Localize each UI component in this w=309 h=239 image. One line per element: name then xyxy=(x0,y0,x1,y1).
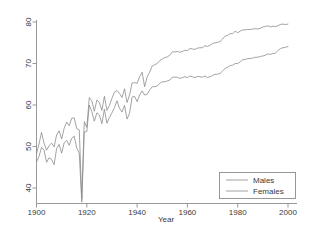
x-tick-label: 1940 xyxy=(128,208,146,217)
legend-label-males: Males xyxy=(253,176,274,185)
legend-label-females: Females xyxy=(253,187,284,196)
x-tick-label: 1960 xyxy=(179,208,197,217)
x-tick-label: 1980 xyxy=(229,208,247,217)
y-tick-label: 60 xyxy=(24,100,33,109)
y-tick-label: 40 xyxy=(24,183,33,192)
x-tick-label: 1920 xyxy=(78,208,96,217)
y-tick-label: 80 xyxy=(24,17,33,26)
chart-figure: 4050607080 190019201940196019802000 Year… xyxy=(0,0,309,239)
y-tick-label: 70 xyxy=(24,59,33,68)
chart-legend: Males Females xyxy=(220,173,296,199)
x-axis-title: Year xyxy=(158,215,175,224)
x-tick-label: 2000 xyxy=(279,208,297,217)
y-axis-ticks: 4050607080 xyxy=(24,17,37,192)
y-tick-label: 50 xyxy=(24,142,33,151)
line-chart: 4050607080 190019201940196019802000 Year… xyxy=(0,0,309,239)
x-tick-label: 1900 xyxy=(28,208,46,217)
